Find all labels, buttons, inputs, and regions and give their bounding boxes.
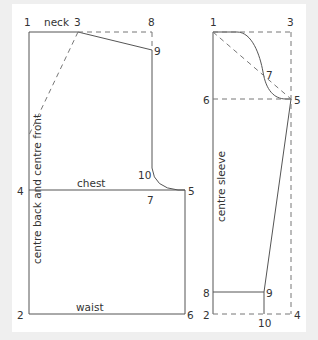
- neck-label: neck: [44, 16, 70, 28]
- sleeve-point-8: 8: [203, 287, 210, 299]
- sleeve-point-2: 2: [203, 309, 210, 321]
- bodice-block: 1 neck 3 8 9 10 7 5 4 chest waist 2 6 ce…: [17, 16, 195, 321]
- bodice-point-8: 8: [148, 16, 155, 28]
- centre-sleeve-label: centre sleeve: [215, 151, 227, 222]
- sleeve-block: 1 3 7 6 5 8 9 2 10 4 centre sleeve: [203, 16, 301, 329]
- sleeve-cap-curve: [213, 32, 291, 99]
- sleeve-point-4: 4: [294, 309, 301, 321]
- sleeve-point-6: 6: [203, 94, 210, 106]
- bodice-point-3: 3: [74, 16, 81, 28]
- chest-label: chest: [77, 177, 105, 189]
- bodice-point-4: 4: [17, 185, 24, 197]
- sleeve-point-10: 10: [258, 317, 271, 329]
- sleeve-point-3: 3: [287, 16, 294, 28]
- sleeve-point-1: 1: [210, 16, 217, 28]
- sleeve-point-7: 7: [266, 69, 273, 81]
- bodice-point-7: 7: [147, 194, 154, 206]
- bodice-outline: [29, 32, 185, 314]
- centre-back-front-label: centre back and centre front: [31, 114, 43, 264]
- bodice-point-6: 6: [187, 309, 194, 321]
- underarm-seam: [264, 99, 291, 292]
- bodice-point-2: 2: [17, 309, 24, 321]
- bodice-point-9: 9: [154, 45, 161, 57]
- bodice-point-5: 5: [188, 185, 195, 197]
- bodice-point-1: 1: [24, 16, 31, 28]
- pattern-diagram: 1 neck 3 8 9 10 7 5 4 chest waist 2 6 ce…: [0, 0, 318, 340]
- sleeve-point-5: 5: [294, 94, 301, 106]
- waist-label: waist: [76, 301, 104, 313]
- sleeve-point-9: 9: [266, 287, 273, 299]
- bodice-point-10: 10: [138, 169, 151, 181]
